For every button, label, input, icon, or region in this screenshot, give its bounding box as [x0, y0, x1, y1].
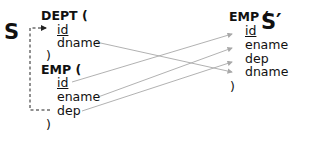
- target-emp-attr-id: id: [245, 24, 256, 37]
- mapping-arrow-dname: [96, 42, 232, 72]
- mapping-arrow-ename: [98, 48, 232, 97]
- schema-mapping-diagram: S DEPT ( id dname ) EMP ( id ename dep )…: [0, 0, 309, 143]
- target-schema-label: S′: [261, 11, 282, 33]
- mapping-arrow-dep: [82, 62, 232, 111]
- source-dept-attr-dname: dname: [57, 36, 100, 49]
- source-emp-attr-dep: dep: [57, 104, 81, 117]
- target-emp-attr-ename: ename: [245, 38, 288, 51]
- target-emp-attr-dname: dname: [245, 65, 288, 78]
- source-emp-attr-ename: ename: [57, 90, 100, 103]
- source-emp-close: ): [46, 118, 51, 131]
- source-dept-close: ): [46, 49, 51, 62]
- source-emp-attr-id: id: [57, 76, 68, 89]
- target-emp-close: ): [230, 80, 235, 93]
- source-table-dept-header: DEPT (: [41, 9, 88, 22]
- source-schema-label: S: [4, 21, 19, 43]
